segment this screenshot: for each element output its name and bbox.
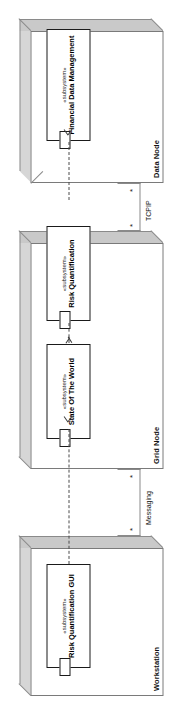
node-side-face — [19, 19, 163, 31]
component-name: Risk Quantification — [67, 239, 76, 307]
node-top-face — [19, 536, 31, 696]
node-edge-right — [19, 19, 151, 20]
component-name: Financial Data Management — [67, 36, 76, 135]
communication-path-messaging-stub-left — [117, 535, 140, 536]
node-label-data-node: Data Node — [151, 140, 160, 178]
tcpip-multiplicity-source: * — [128, 224, 136, 227]
component-risk-quantification-gui[interactable]: «subsystem» Risk Quantification GUI — [46, 564, 90, 668]
component-state-of-the-world[interactable]: «subsystem» State Of The World — [46, 344, 90, 439]
node-grid-node[interactable]: Grid Node «subsystem» State Of The World… — [19, 231, 163, 469]
node-workstation[interactable]: Workstation «subsystem» Risk Quantificat… — [19, 536, 163, 696]
tcpip-multiplicity-target: * — [128, 189, 136, 192]
messaging-multiplicity-source: * — [128, 528, 136, 531]
component-name: Risk Quantification GUI — [67, 574, 76, 658]
node-edge-top — [19, 536, 20, 684]
communication-path-tcpip-line[interactable] — [139, 183, 140, 231]
component-risk-quantification[interactable]: «subsystem» Risk Quantification — [46, 226, 90, 321]
node-top-face — [19, 19, 31, 183]
communication-path-messaging-stub-right — [117, 469, 140, 470]
communication-path-tcpip-stub-right — [117, 183, 140, 184]
communication-path-tcpip-label: TCPIP — [144, 199, 151, 222]
node-edge-top — [19, 19, 20, 171]
node-edge-top — [19, 231, 20, 457]
node-top-face — [19, 231, 31, 469]
dependency-gui-to-risk-line — [68, 429, 69, 564]
component-tab-upper — [59, 658, 70, 676]
node-side-face — [19, 536, 163, 548]
node-label-workstation: Workstation — [151, 647, 160, 691]
node-label-grid-node: Grid Node — [151, 427, 160, 464]
communication-path-tcpip-stub-left — [117, 230, 140, 231]
communication-path-messaging-label: Messaging — [144, 490, 151, 526]
deployment-diagram-canvas: Data Node «subsystem» Financial Data Man… — [0, 0, 183, 714]
component-financial-data-management[interactable]: «subsystem» Financial Data Management — [46, 29, 90, 141]
communication-path-messaging-line[interactable] — [139, 469, 140, 536]
messaging-multiplicity-target: * — [128, 475, 136, 478]
node-data-node[interactable]: Data Node «subsystem» Financial Data Man… — [19, 19, 163, 183]
dependency-state-to-financial-line — [68, 142, 69, 200]
node-side-face — [19, 231, 163, 243]
diagram-stage: Data Node «subsystem» Financial Data Man… — [0, 0, 183, 714]
node-edge-right — [19, 536, 151, 537]
